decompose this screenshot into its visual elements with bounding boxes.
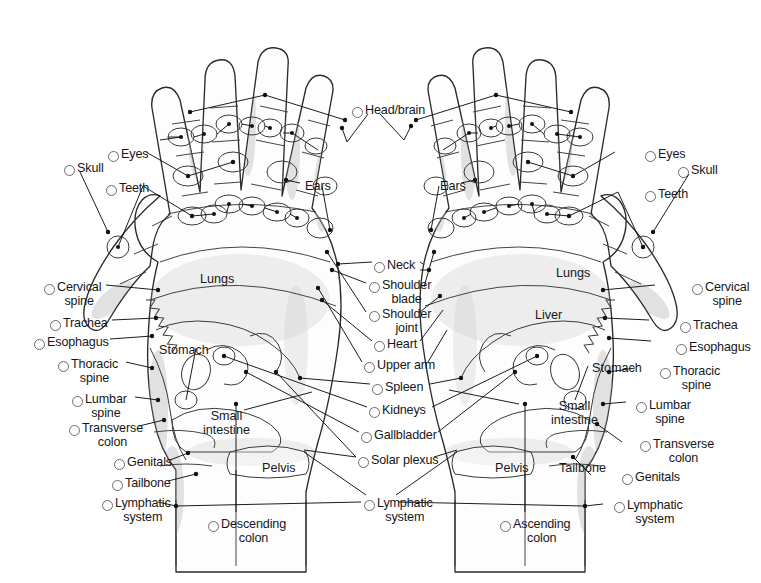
callout-solar-plexus[interactable]: Solar plexus bbox=[358, 454, 439, 472]
inner-label-lungs-right: Lungs bbox=[556, 267, 590, 281]
callout-esophagus-right[interactable]: Esophagus bbox=[676, 341, 751, 359]
callout-lymphatic-system-right[interactable]: Lymphatic system bbox=[614, 499, 683, 526]
callout-label-text: Lumbar spine bbox=[649, 399, 691, 426]
inner-label-tailbone-right: Tailbone bbox=[559, 462, 606, 476]
callout-shoulder-joint[interactable]: Shoulder joint bbox=[369, 308, 431, 335]
bullet-circle-icon bbox=[622, 474, 633, 485]
callout-label-text: Head/brain bbox=[365, 104, 425, 118]
callout-head-brain[interactable]: Head/brain bbox=[352, 104, 425, 122]
callout-esophagus-left[interactable]: Esophagus bbox=[34, 336, 109, 354]
callout-label-text: Skull bbox=[691, 164, 718, 178]
bullet-circle-icon bbox=[44, 284, 55, 295]
callout-tailbone-left[interactable]: Tailbone bbox=[112, 477, 171, 495]
callout-descending-colon[interactable]: Descending colon bbox=[208, 518, 286, 545]
callout-label-text: Ascending colon bbox=[513, 518, 570, 545]
inner-label-small-intestine-left: Small intestine bbox=[203, 410, 250, 437]
inner-label-stomach-right: Stomach bbox=[592, 362, 642, 376]
bullet-circle-icon bbox=[102, 500, 113, 511]
callout-label-text: Shoulder blade bbox=[382, 279, 431, 306]
callout-label-text: Lymphatic system bbox=[627, 499, 683, 526]
callout-label-text: Transverse colon bbox=[82, 422, 143, 449]
callout-trachea-left[interactable]: Trachea bbox=[50, 317, 108, 335]
callout-label-text: Skull bbox=[77, 162, 104, 176]
bullet-circle-icon bbox=[645, 151, 656, 162]
inner-label-pelvis-left: Pelvis bbox=[262, 462, 296, 476]
bullet-circle-icon bbox=[50, 320, 61, 331]
callout-genitals-right[interactable]: Genitals bbox=[622, 471, 680, 489]
callout-cervical-spine-right[interactable]: Cervical spine bbox=[692, 281, 749, 308]
callout-label-text: Thoracic spine bbox=[673, 365, 720, 392]
callout-skull-left[interactable]: Skull bbox=[64, 162, 104, 180]
bullet-circle-icon bbox=[72, 396, 83, 407]
callout-lymphatic-system-center[interactable]: Lymphatic system bbox=[364, 497, 433, 524]
callout-label-text: Esophagus bbox=[47, 336, 109, 350]
bullet-circle-icon bbox=[58, 361, 69, 372]
bullet-circle-icon bbox=[108, 151, 119, 162]
callout-label-text: Eyes bbox=[121, 148, 148, 162]
callout-label-text: Trachea bbox=[63, 317, 108, 331]
callout-upper-arm[interactable]: Upper arm bbox=[364, 359, 435, 377]
callout-label-text: Spleen bbox=[385, 381, 423, 395]
callout-label-text: Lymphatic system bbox=[115, 497, 171, 524]
reflexology-hand-chart: Head/brainNeckShoulder bladeShoulder joi… bbox=[0, 0, 761, 583]
callout-trachea-right[interactable]: Trachea bbox=[680, 319, 738, 337]
callout-label-text: Lumbar spine bbox=[85, 393, 127, 420]
bullet-circle-icon bbox=[640, 441, 651, 452]
bullet-circle-icon bbox=[369, 282, 380, 293]
callout-lumbar-spine-right[interactable]: Lumbar spine bbox=[636, 399, 691, 426]
bullet-circle-icon bbox=[660, 368, 671, 379]
callout-label-text: Cervical spine bbox=[705, 281, 749, 308]
callout-teeth-right[interactable]: Teeth bbox=[645, 188, 688, 206]
callout-label-text: Shoulder joint bbox=[382, 308, 431, 335]
callout-teeth-left[interactable]: Teeth bbox=[106, 182, 149, 200]
callout-label-text: Eyes bbox=[658, 148, 685, 162]
bullet-circle-icon bbox=[364, 362, 375, 373]
callout-label-text: Neck bbox=[387, 259, 415, 273]
bullet-circle-icon bbox=[34, 339, 45, 350]
callout-label-text: Teeth bbox=[658, 188, 688, 202]
callout-cervical-spine-left[interactable]: Cervical spine bbox=[44, 281, 101, 308]
inner-label-lungs-left: Lungs bbox=[200, 273, 234, 287]
callout-thoracic-spine-right[interactable]: Thoracic spine bbox=[660, 365, 720, 392]
callout-eyes-right[interactable]: Eyes bbox=[645, 148, 685, 166]
callout-genitals-left[interactable]: Genitals bbox=[114, 456, 172, 474]
callout-eyes-left[interactable]: Eyes bbox=[108, 148, 148, 166]
callout-transverse-colon-left[interactable]: Transverse colon bbox=[69, 422, 143, 449]
bullet-circle-icon bbox=[614, 502, 625, 513]
callout-spleen[interactable]: Spleen bbox=[372, 381, 423, 399]
callout-lymphatic-system-left[interactable]: Lymphatic system bbox=[102, 497, 171, 524]
bullet-circle-icon bbox=[636, 402, 647, 413]
bullet-circle-icon bbox=[372, 384, 383, 395]
inner-label-ears-left: Ears bbox=[305, 180, 331, 194]
callout-label-text: Genitals bbox=[127, 456, 172, 470]
callout-lumbar-spine-left[interactable]: Lumbar spine bbox=[72, 393, 127, 420]
inner-label-pelvis-right: Pelvis bbox=[495, 462, 529, 476]
bullet-circle-icon bbox=[369, 407, 380, 418]
callout-label-text: Gallbladder bbox=[374, 429, 437, 443]
callout-kidneys[interactable]: Kidneys bbox=[369, 404, 426, 422]
callout-label-text: Trachea bbox=[693, 319, 738, 333]
bullet-circle-icon bbox=[374, 341, 385, 352]
callout-gallbladder[interactable]: Gallbladder bbox=[361, 429, 437, 447]
callout-transverse-colon-right[interactable]: Transverse colon bbox=[640, 438, 714, 465]
bullet-circle-icon bbox=[678, 167, 689, 178]
callout-label-text: Lymphatic system bbox=[377, 497, 433, 524]
bullet-circle-icon bbox=[208, 521, 219, 532]
bullet-circle-icon bbox=[680, 322, 691, 333]
bullet-circle-icon bbox=[364, 500, 375, 511]
callout-label-text: Thoracic spine bbox=[71, 358, 118, 385]
callout-label-text: Descending colon bbox=[221, 518, 286, 545]
callout-heart[interactable]: Heart bbox=[374, 338, 417, 356]
callout-label-text: Genitals bbox=[635, 471, 680, 485]
bullet-circle-icon bbox=[676, 344, 687, 355]
bullet-circle-icon bbox=[361, 432, 372, 443]
callout-label-text: Esophagus bbox=[689, 341, 751, 355]
callout-skull-right[interactable]: Skull bbox=[678, 164, 718, 182]
callout-ascending-colon[interactable]: Ascending colon bbox=[500, 518, 570, 545]
bullet-circle-icon bbox=[500, 521, 511, 532]
callout-label-text: Teeth bbox=[119, 182, 149, 196]
callout-shoulder-blade[interactable]: Shoulder blade bbox=[369, 279, 431, 306]
callout-neck[interactable]: Neck bbox=[374, 259, 415, 277]
inner-label-liver-right: Liver bbox=[535, 309, 562, 323]
callout-thoracic-spine-left[interactable]: Thoracic spine bbox=[58, 358, 118, 385]
